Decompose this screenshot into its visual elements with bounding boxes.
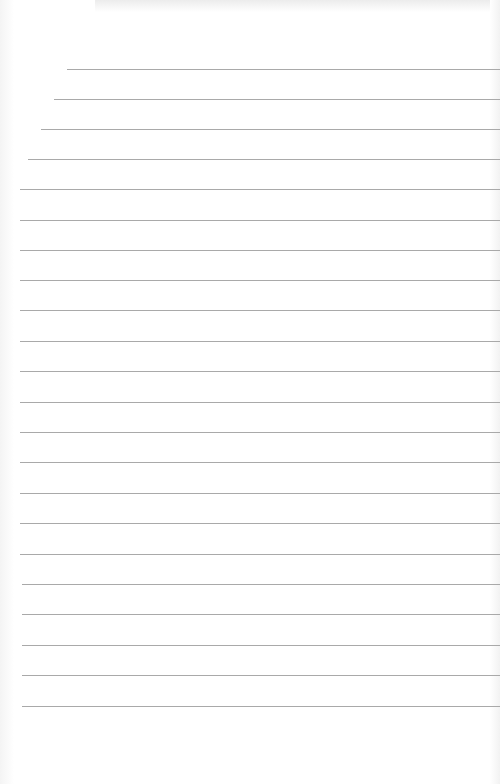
top-edge-shadow [95,0,490,12]
ruled-line [22,675,500,676]
ruled-line [20,341,500,342]
ruled-line [20,310,500,311]
ruled-line [20,523,500,524]
lined-paper-sheet [0,0,500,784]
ruled-line [22,614,500,615]
ruled-line [22,645,500,646]
ruled-line [20,280,500,281]
ruled-line [41,129,500,130]
ruled-line [20,220,500,221]
ruled-line [20,402,500,403]
ruled-line [20,493,500,494]
ruled-line [67,69,500,70]
ruled-line [20,189,500,190]
ruled-line [28,159,500,160]
ruled-line [54,99,500,100]
ruled-line [22,584,500,585]
ruled-line [20,554,500,555]
ruled-line [20,432,500,433]
ruled-line [22,706,500,707]
ruled-line [20,250,500,251]
ruled-line [20,371,500,372]
ruled-line [20,462,500,463]
